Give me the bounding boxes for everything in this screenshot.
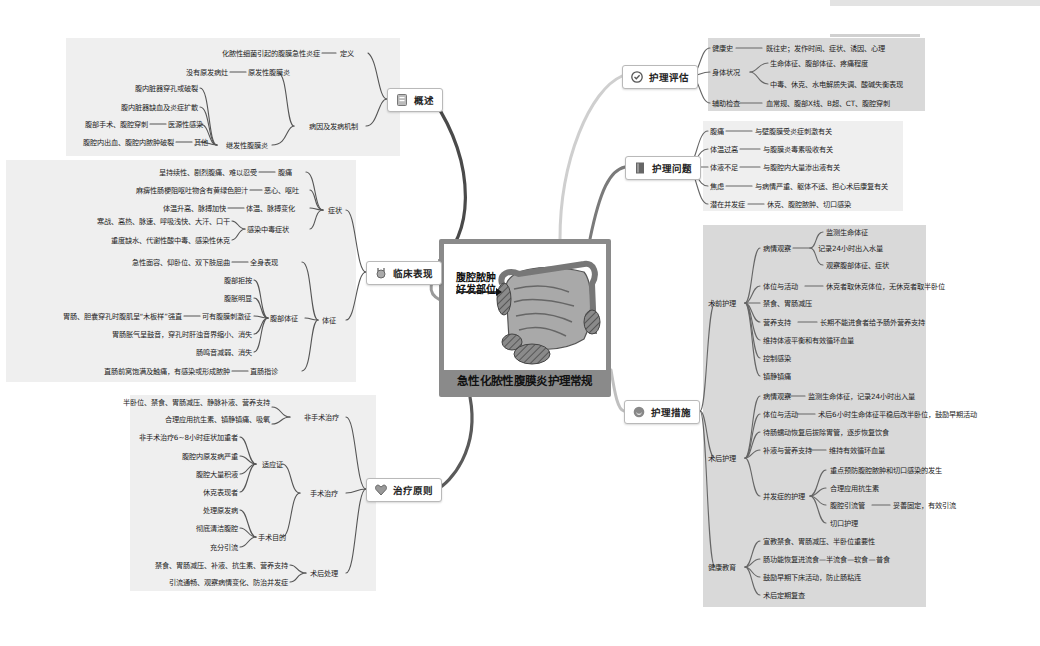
education-label: 健康教育 (708, 563, 736, 572)
postop-observation-label: 病情观察 (763, 392, 791, 401)
problem-2-label: 体温过高 (710, 145, 738, 154)
preop-observation-item-2: 记录24小时出入水量 (818, 244, 883, 253)
toxic-item-1: 寒战、高热、脉速、呼吸浅快、大汗、口干 (97, 217, 230, 226)
smile-icon (633, 406, 645, 418)
problem-4-text: 与病情严重、躯体不适、担心术后康复有关 (755, 182, 888, 191)
secondary-label: 继发性腹膜炎 (226, 141, 268, 150)
temp-label: 体温、脉搏变化 (246, 204, 295, 213)
symptoms-label: 症状 (328, 206, 342, 215)
problem-1-label: 腹痛 (710, 127, 724, 136)
education-item-3: 鼓励早期下床活动，防止肠粘连 (763, 573, 861, 582)
postop-item-2: 引流通畅、观察病情变化、防治并发症 (169, 578, 288, 587)
postop-care-label: 术后护理 (708, 454, 736, 463)
postop-diet: 待肠蠕动恢复后拔除胃管，逐步恢复饮食 (763, 428, 889, 437)
education-item-1: 宣教禁食、胃肠减压、半卧位重要性 (763, 537, 875, 546)
preop-label: 术前护理 (708, 299, 736, 308)
problem-2-text: 与腹膜炎毒素吸收有关 (763, 145, 833, 154)
topic-problems-label: 护理问题 (652, 161, 692, 175)
topic-clinical-label: 临床表现 (393, 266, 433, 280)
indication-item-3: 腹腔大量积液 (196, 470, 238, 479)
nonsurgical-item-1: 半卧位、禁食、胃肠减压、静脉补液、营养支持 (123, 398, 270, 407)
preop-position-label: 体位与活动 (763, 282, 798, 291)
preop-nutrition-text: 长期不能进食者给予肠外营养支持 (820, 318, 925, 327)
problem-4-label: 焦虑 (710, 182, 724, 191)
postop-item-1: 禁食、胃肠减压、补液、抗生素、营养支持 (155, 561, 288, 570)
topic-clinical[interactable]: 临床表现 (366, 261, 442, 285)
secondary-item-2: 腹内脏器缺血及炎症扩散 (121, 103, 198, 112)
abdominal-item-3: 胃肠胀气呈鼓音，穿孔时肝浊音界缩小、消失 (112, 330, 252, 339)
document-icon (396, 94, 408, 106)
goals-label: 手术目的 (258, 533, 286, 542)
complications-item-2: 合理应用抗生素 (830, 484, 879, 493)
abscess-label-line2: 好发部位 (456, 284, 496, 296)
goal-item-2: 彻底清洁腹腔 (196, 524, 238, 533)
goal-item-3: 充分引流 (210, 543, 238, 552)
topic-problems[interactable]: 护理问题 (625, 156, 701, 180)
iatrogenic-text: 腹部手术、腹腔穿刺 (85, 120, 148, 129)
postop-fluid-label: 补液与营养支持 (763, 446, 812, 455)
nausea-text: 麻痹性肠梗阻呕吐物含有黄绿色胆汁 (136, 186, 248, 195)
topic-assessment[interactable]: 护理评估 (622, 65, 698, 89)
pain-text: 呈持续性、剧烈腹痛、难以忍受 (159, 168, 257, 177)
topic-treatment[interactable]: 治疗原则 (366, 478, 442, 502)
topic-assessment-label: 护理评估 (649, 70, 689, 84)
drain-text: 妥善固定，有效引流 (893, 501, 956, 510)
problem-1-text: 与壁腹膜受炎症刺激有关 (755, 127, 832, 136)
assessment-row-1-item: 既往史；发作时间、症状、诱因、心理 (766, 44, 885, 53)
preop-fasting: 禁食、胃肠减压 (763, 299, 812, 308)
assessment-row-1-label: 健康史 (712, 44, 733, 53)
preop-infection: 控制感染 (763, 354, 791, 363)
education-item-4: 术后定期复查 (763, 591, 805, 600)
topic-measures[interactable]: 护理措施 (624, 400, 700, 424)
education-item-2: 肠功能恢复进流食—半流食—软食—普食 (763, 555, 890, 564)
surgical-label: 手术治疗 (310, 489, 338, 498)
other-text: 腹腔内出血、腹腔内脓肿破裂 (83, 138, 174, 147)
indication-item-1: 非手术治疗6~8小时症状加重者 (139, 433, 238, 442)
problem-5-label: 潜在并发症 (710, 200, 745, 209)
stethoscope-icon (375, 267, 387, 279)
topic-measures-label: 护理措施 (651, 405, 691, 419)
complications-item-1: 重点预防腹腔脓肿和切口感染的发生 (830, 466, 942, 475)
heart-icon (375, 484, 387, 496)
irritation-label: 可有腹膜刺激征 (202, 312, 251, 321)
postop-position-text: 术后6小时生命体征平稳后改半卧位，鼓励早期活动 (818, 410, 977, 419)
signs-label: 体征 (322, 316, 336, 325)
problem-5-text: 休克、腹腔脓肿、切口感染 (767, 200, 851, 209)
preop-analgesia: 镇静镇痛 (763, 372, 791, 381)
iatrogenic-label: 医源性感染 (168, 120, 203, 129)
problem-3-text: 与腹腔内大量渗出液有关 (763, 163, 840, 172)
intestine-illustration: 腹腔脓肿 好发部位 (444, 244, 606, 370)
goal-item-1: 处理原发病 (203, 506, 238, 515)
central-topic[interactable]: 腹腔脓肿 好发部位 急性化脓性腹膜炎护理常规 (439, 239, 611, 397)
abdominal-item-4: 肠鸣音减弱、消失 (196, 348, 252, 357)
other-label: 其他 (194, 138, 208, 147)
nausea-label: 恶心、呕吐 (264, 186, 299, 195)
primary-label: 原发性腹膜炎 (248, 68, 290, 77)
assessment-row-2-item-2: 中毒、休克、水电解质失调、酸碱失衡表现 (770, 80, 903, 89)
preop-fluid: 维持体液平衡和有效循环血量 (763, 336, 854, 345)
topic-overview[interactable]: 概述 (387, 88, 443, 112)
abdominal-item-2: 腹胀明显 (224, 294, 252, 303)
secondary-item-1: 腹内脏器穿孔或破裂 (135, 84, 198, 93)
indication-item-4: 休克表现者 (203, 488, 238, 497)
preop-nutrition-label: 营养支持 (763, 318, 791, 327)
indication-item-2: 腹腔内原发病严重 (182, 452, 238, 461)
indications-label: 适应证 (262, 460, 283, 469)
postop-label: 术后处理 (310, 569, 338, 578)
temp-text: 体温升高、脉搏加快 (163, 204, 226, 213)
abscess-label-line1: 腹腔脓肿 (456, 272, 496, 284)
assessment-row-2-item-1: 生命体征、腹部体征、疼痛程度 (770, 59, 868, 68)
problem-3-label: 体液不足 (710, 163, 738, 172)
drain-label: 腹腔引流管 (830, 501, 865, 510)
definition-text: 化脓性细菌引起的腹膜急性炎症 (222, 49, 320, 58)
etiology-label: 病因及发病机制 (309, 122, 358, 131)
general-label: 全身表现 (250, 258, 278, 267)
rectal-label: 直肠指诊 (250, 367, 278, 376)
preop-position-text: 休克者取休克体位，无休克者取半卧位 (826, 282, 945, 291)
incision-care: 切口护理 (830, 519, 858, 528)
postop-observation-text: 监测生命体征，记录24小时出入量 (808, 392, 915, 401)
assessment-row-2-label: 身体状况 (712, 68, 740, 77)
preop-observation-label: 病情观察 (763, 244, 791, 253)
intestine-icon (444, 244, 606, 370)
abscess-site-label: 腹腔脓肿 好发部位 (456, 272, 496, 296)
